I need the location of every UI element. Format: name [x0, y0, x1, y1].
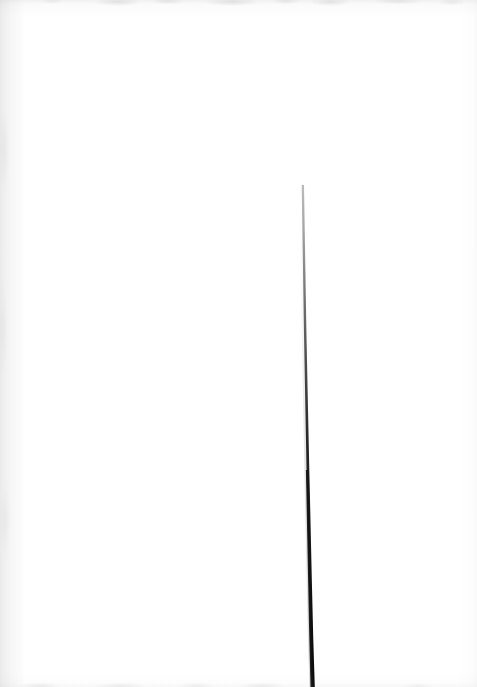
paper-background — [0, 0, 477, 687]
scanned-page — [0, 0, 477, 687]
